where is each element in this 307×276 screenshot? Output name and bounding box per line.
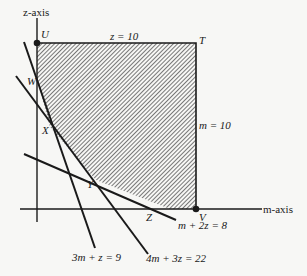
constraint-label-m-2z-8: m + 2z = 8: [178, 219, 228, 231]
z-axis-label: z-axis: [23, 6, 49, 18]
constraint-label-m10: m = 10: [199, 119, 231, 131]
vertex-dot-U: [34, 40, 41, 47]
constraint-label-3m-z-9: 3m + z = 9: [71, 251, 122, 263]
vertex-label-W: W: [27, 75, 37, 87]
constraint-label-z10: z = 10: [109, 30, 139, 42]
m-axis-label: m-axis: [263, 203, 293, 215]
feasible-region: [37, 43, 196, 209]
constraint-label-4m-3z-22: 4m + 3z = 22: [146, 252, 207, 264]
vertex-label-Z: Z: [146, 211, 153, 223]
vertex-label-U: U: [41, 28, 50, 40]
vertex-label-T: T: [199, 34, 206, 46]
vertex-label-X: X: [41, 124, 50, 136]
feasible-region-diagram: z-axis m-axis U T V W X Y Z z = 10 m = 1…: [0, 0, 307, 276]
